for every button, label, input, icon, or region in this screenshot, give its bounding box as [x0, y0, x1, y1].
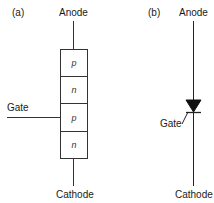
panel-a-tag: (a) — [12, 7, 24, 19]
cathode-label-b: Cathode — [175, 189, 213, 201]
layer-label-4: n — [71, 140, 76, 150]
thyristor-triangle-icon — [186, 100, 201, 112]
gate-lead-b — [182, 113, 188, 124]
gate-label-a: Gate — [7, 102, 29, 114]
anode-label-b: Anode — [179, 7, 208, 19]
layer-label-1: p — [70, 58, 76, 68]
anode-label-a: Anode — [59, 7, 88, 19]
layer-label-2: n — [71, 85, 76, 95]
panel-b-tag: (b) — [148, 7, 160, 19]
cathode-label-a: Cathode — [56, 189, 94, 201]
layer-label-3: p — [70, 113, 76, 123]
diagram-canvas: p n p n — [0, 0, 214, 203]
panel-b-symbol — [182, 21, 201, 186]
gate-label-b: Gate — [160, 118, 182, 130]
